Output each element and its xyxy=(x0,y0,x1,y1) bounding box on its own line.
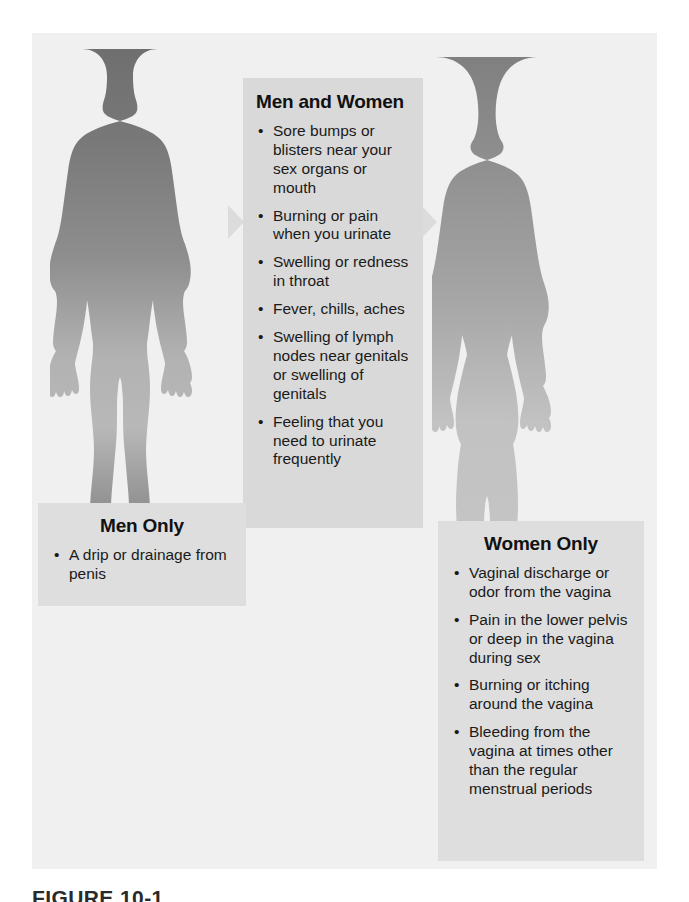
bullet-icon: • xyxy=(258,300,263,319)
bullet-icon: • xyxy=(54,546,59,565)
list-item-label: Sore bumps or blisters near your sex org… xyxy=(273,122,392,196)
list-item-label: Pain in the lower pelvis or deep in the … xyxy=(469,611,628,666)
bullet-icon: • xyxy=(258,413,263,432)
panel-women-only: Women Only • Vaginal discharge or odor f… xyxy=(438,521,644,861)
panel-men-only: Men Only • A drip or drainage from penis xyxy=(38,503,246,606)
list-item-label: Burning or itching around the vagina xyxy=(469,676,593,712)
bullet-icon: • xyxy=(454,676,459,695)
list-item: • Fever, chills, aches xyxy=(256,300,410,319)
figure-caption: FIGURE 10-1 xyxy=(32,886,164,902)
panel-women-only-list: • Vaginal discharge or odor from the vag… xyxy=(452,564,630,799)
list-item-label: Fever, chills, aches xyxy=(273,300,405,317)
bullet-icon: • xyxy=(454,611,459,630)
figure-frame: Men and Women • Sore bumps or blisters n… xyxy=(32,33,657,869)
list-item-label: Vaginal discharge or odor from the vagin… xyxy=(469,564,611,600)
list-item: • Bleeding from the vagina at times othe… xyxy=(452,723,630,799)
list-item: • Sore bumps or blisters near your sex o… xyxy=(256,122,410,198)
list-item: • Pain in the lower pelvis or deep in th… xyxy=(452,611,630,668)
bullet-icon: • xyxy=(258,207,263,226)
list-item-label: Feeling that you need to urinate frequen… xyxy=(273,413,383,468)
list-item-label: Swelling or redness in throat xyxy=(273,253,408,289)
list-item-label: Bleeding from the vagina at times other … xyxy=(469,723,613,797)
bullet-icon: • xyxy=(258,328,263,347)
list-item-label: A drip or drainage from penis xyxy=(69,546,227,582)
list-item: • Feeling that you need to urinate frequ… xyxy=(256,413,410,470)
panel-men-only-title: Men Only xyxy=(52,516,232,537)
panel-women-only-title: Women Only xyxy=(452,534,630,555)
panel-men-and-women-title: Men and Women xyxy=(256,92,410,113)
male-body-silhouette xyxy=(50,43,266,523)
bullet-icon: • xyxy=(258,253,263,272)
panel-men-and-women-list: • Sore bumps or blisters near your sex o… xyxy=(256,122,410,470)
list-item: • A drip or drainage from penis xyxy=(52,546,232,584)
arrow-right-icon-right xyxy=(421,205,437,239)
list-item: • Burning or itching around the vagina xyxy=(452,676,630,714)
arrow-right-icon-left xyxy=(228,205,244,239)
list-item-label: Swelling of lymph nodes near genitals or… xyxy=(273,328,408,402)
list-item: • Swelling or redness in throat xyxy=(256,253,410,291)
bullet-icon: • xyxy=(454,564,459,583)
list-item: • Swelling of lymph nodes near genitals … xyxy=(256,328,410,404)
list-item: • Burning or pain when you urinate xyxy=(256,207,410,245)
panel-men-and-women: Men and Women • Sore bumps or blisters n… xyxy=(243,78,423,528)
bullet-icon: • xyxy=(258,122,263,141)
list-item-label: Burning or pain when you urinate xyxy=(273,207,391,243)
list-item: • Vaginal discharge or odor from the vag… xyxy=(452,564,630,602)
panel-men-only-list: • A drip or drainage from penis xyxy=(52,546,232,584)
bullet-icon: • xyxy=(454,723,459,742)
female-body-silhouette xyxy=(432,53,644,531)
